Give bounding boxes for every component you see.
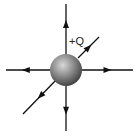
field-diagram: +Q bbox=[0, 0, 137, 137]
arrowhead-icon bbox=[63, 20, 69, 28]
charge-label: +Q bbox=[69, 35, 84, 47]
field-lines-svg bbox=[0, 0, 137, 137]
charge-sphere bbox=[50, 54, 82, 86]
arrowhead-icon bbox=[104, 67, 112, 73]
arrowhead-icon bbox=[63, 107, 69, 115]
arrowhead-icon bbox=[22, 67, 30, 73]
